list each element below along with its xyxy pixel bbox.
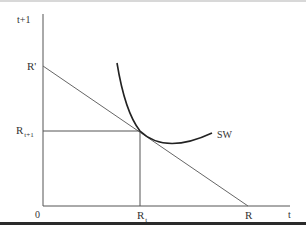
r-label: R: [245, 210, 252, 221]
r-t-label: Rt: [137, 210, 147, 221]
r-t1-sub: t+1: [24, 131, 33, 139]
r-prime-label: R': [27, 61, 36, 72]
r-t-main: R: [137, 209, 144, 221]
bottom-border: [0, 222, 306, 225]
y-axis-label: t+1: [17, 15, 30, 25]
r-t1-label: Rt+1: [16, 125, 34, 136]
r-t1-main: R: [16, 124, 23, 136]
sw-curve-label: SW: [217, 130, 232, 140]
diagram-canvas: [0, 0, 306, 229]
x-axis-label: t: [288, 210, 291, 220]
origin-label: 0: [35, 210, 40, 220]
